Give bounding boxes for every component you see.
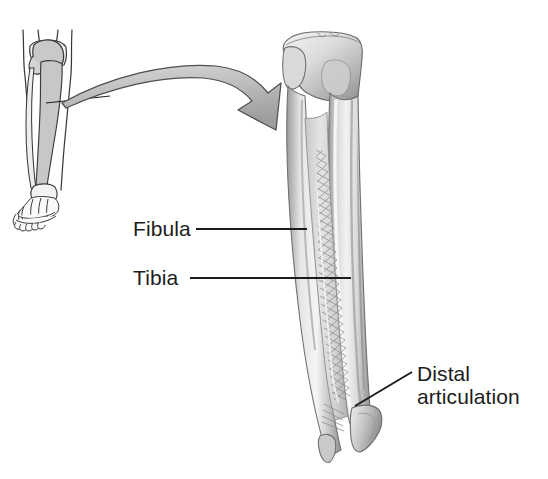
inset-tibia [36,61,62,189]
label-tibia: Tibia [133,266,178,289]
inset-fibula [26,68,36,188]
label-distal-line1: Distal [417,362,541,385]
inset-foot-skeleton [13,197,59,232]
label-distal-articulation: Distal articulation [417,362,541,408]
label-fibula: Fibula [133,217,191,240]
medial-malleolus [350,405,382,452]
label-distal-line2: articulation [417,385,541,408]
lower-leg-skeleton-inset [13,30,72,231]
lateral-malleolus [319,434,336,462]
